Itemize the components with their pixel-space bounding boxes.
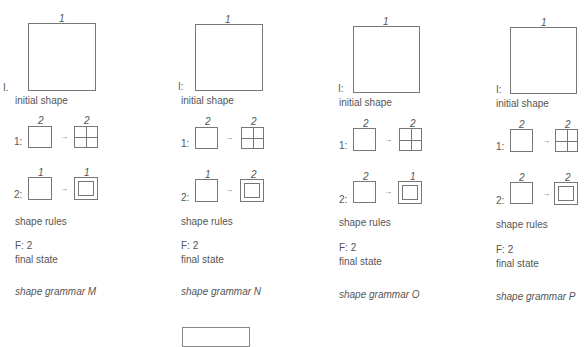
rule1-lhs-square: [353, 128, 376, 151]
initial-shape-marker: I:: [178, 81, 184, 93]
initial-shape-label: initial shape: [496, 98, 549, 110]
rule1-rhs-number: 2: [251, 117, 257, 127]
rule1-rhs-grid-square: [555, 129, 578, 152]
rule1-lhs-number: 2: [205, 117, 211, 127]
rule2-prefix: 2:: [496, 195, 504, 207]
shape-rules-label: shape rules: [181, 216, 233, 228]
initial-shape-label: initial shape: [339, 97, 392, 109]
shape-rules-label: shape rules: [339, 217, 391, 229]
initial-shape-label: initial shape: [181, 95, 234, 107]
rule1-prefix: 1:: [181, 138, 189, 150]
shape-rules-label: shape rules: [496, 219, 548, 231]
initial-shape-marker: I:: [496, 84, 502, 96]
rule2-arrow-icon: →: [542, 190, 550, 198]
rule1-lhs-square: [510, 129, 533, 152]
grammar-p-panel: 1 I: initial shape 2 1: → 2 2 2: → 2 sha…: [0, 0, 150, 333]
rule2-lhs-square: [510, 182, 533, 204]
rule2-lhs-square: [195, 179, 218, 202]
initial-shape-square: [353, 26, 420, 93]
rule2-rhs-double-square: [398, 181, 422, 204]
grammar-title: shape grammar P: [496, 291, 575, 303]
final-state-value: F: 2: [496, 244, 513, 256]
rule1-arrow-icon: →: [542, 137, 550, 145]
rule1-rhs-grid-square: [241, 127, 264, 149]
final-state-value: F: 2: [181, 240, 198, 252]
initial-shape-square: [195, 24, 263, 91]
rule1-arrow-icon: →: [225, 134, 233, 142]
rule1-prefix: 1:: [496, 141, 504, 153]
rule1-rhs-grid-square: [399, 128, 422, 151]
rule1-prefix: 1:: [339, 140, 347, 152]
rule2-prefix: 2:: [181, 192, 189, 204]
rule2-rhs-double-square: [240, 179, 264, 202]
rule2-prefix: 2:: [339, 194, 347, 206]
final-state-label: final state: [496, 258, 539, 270]
rule2-arrow-icon: →: [384, 188, 392, 196]
rule1-arrow-icon: →: [384, 136, 392, 144]
initial-shape-marker: I:: [338, 83, 344, 95]
rule1-lhs-square: [195, 127, 218, 149]
cropped-answer-box: [182, 327, 250, 347]
grammar-title: shape grammar N: [181, 286, 261, 298]
final-state-value: F: 2: [339, 242, 356, 254]
rule2-arrow-icon: →: [225, 186, 233, 194]
grammar-title: shape grammar O: [339, 289, 420, 301]
rule2-lhs-square: [353, 181, 376, 203]
final-state-label: final state: [339, 256, 382, 268]
rule2-rhs-double-square: [554, 182, 578, 205]
final-state-label: final state: [181, 254, 224, 266]
initial-shape-square: [510, 27, 577, 94]
